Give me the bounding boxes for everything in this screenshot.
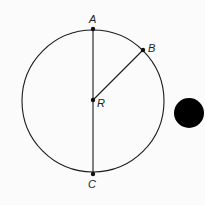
point-b [141, 48, 145, 52]
label-r: R [97, 97, 105, 109]
label-a: A [88, 13, 96, 25]
label-c: C [88, 178, 96, 190]
radius-segment-rb [93, 50, 143, 100]
filled-dot-marker [174, 98, 204, 128]
point-a [91, 27, 95, 31]
circle-diagram: A B R C [0, 0, 205, 205]
point-c [91, 172, 95, 176]
point-r [91, 98, 95, 102]
label-b: B [148, 42, 155, 54]
